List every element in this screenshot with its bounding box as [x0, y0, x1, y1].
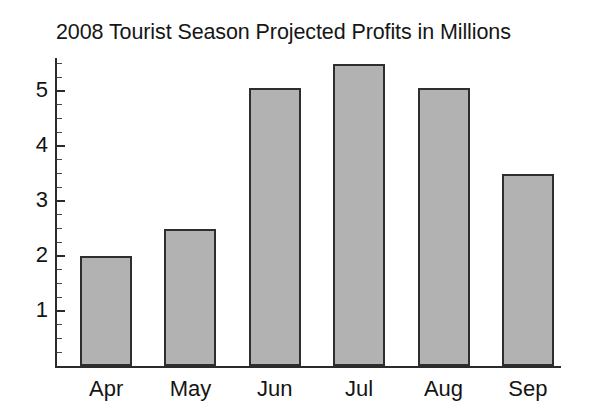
y-axis-tick-label: 5	[6, 79, 48, 101]
y-axis-major-tick	[57, 145, 65, 147]
y-axis-tick-label-text: 4	[14, 134, 48, 156]
y-axis-minor-tick	[57, 63, 62, 64]
y-axis-major-tick	[57, 90, 65, 92]
x-axis-tick-label: Jul	[314, 376, 404, 402]
bar-may	[164, 229, 216, 367]
y-axis-minor-tick	[57, 269, 62, 270]
y-axis-minor-tick	[57, 297, 62, 298]
y-axis-tick-label: 1	[6, 299, 48, 321]
y-axis-tick-label-text: 2	[14, 244, 48, 266]
bar-sep	[502, 174, 554, 367]
bar-chart-figure: 2008 Tourist Season Projected Profits in…	[0, 0, 589, 418]
y-axis-minor-tick	[57, 283, 62, 284]
x-axis-line	[55, 366, 561, 368]
y-axis-tick-label-text: 1	[14, 299, 48, 321]
y-axis-major-tick	[57, 310, 65, 312]
bar-apr	[80, 256, 132, 366]
x-axis-tick-label: Aug	[399, 376, 489, 402]
y-axis-major-tick	[57, 255, 65, 257]
y-axis-minor-tick	[57, 132, 62, 133]
x-axis-tick-label: Jun	[230, 376, 320, 402]
bar-aug	[418, 88, 470, 366]
y-axis-minor-tick	[57, 104, 62, 105]
y-axis-minor-tick	[57, 118, 62, 119]
y-axis-minor-tick	[57, 242, 62, 243]
y-axis-tick-label: 3	[6, 189, 48, 211]
y-axis-minor-tick	[57, 187, 62, 188]
y-axis-minor-tick	[57, 173, 62, 174]
y-axis-minor-tick	[57, 338, 62, 339]
y-axis-minor-tick	[57, 214, 62, 215]
y-axis-minor-tick	[57, 77, 62, 78]
y-axis-minor-tick	[57, 228, 62, 229]
x-axis-tick-label: May	[146, 376, 236, 402]
plot-area: 12345 AprMayJunJulAugSep	[0, 0, 589, 418]
x-axis-tick-label: Sep	[483, 376, 573, 402]
bar-jun	[249, 88, 301, 366]
x-axis-tick-label: Apr	[61, 376, 151, 402]
y-axis-minor-tick	[57, 324, 62, 325]
y-axis-tick-label: 2	[6, 244, 48, 266]
y-axis-tick-label: 4	[6, 134, 48, 156]
y-axis-minor-tick	[57, 352, 62, 353]
y-axis-tick-label-text: 3	[14, 189, 48, 211]
y-axis-minor-tick	[57, 159, 62, 160]
bar-jul	[333, 64, 385, 367]
y-axis-major-tick	[57, 200, 65, 202]
y-axis-tick-label-text: 5	[14, 79, 48, 101]
